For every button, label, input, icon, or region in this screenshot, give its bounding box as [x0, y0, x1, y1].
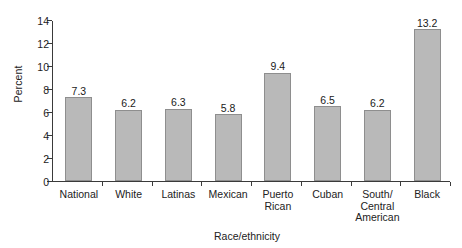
bar-puerto-rican: 9.4: [264, 73, 291, 181]
bar-black: 13.2: [414, 29, 441, 181]
x-tick-mark: [152, 182, 153, 186]
bar-value-label: 13.2: [417, 18, 437, 29]
bar-value-label: 6.5: [320, 95, 335, 106]
bar-value-label: 9.4: [271, 61, 286, 72]
x-tick-mark: [201, 182, 202, 186]
x-tick-mark: [102, 182, 103, 186]
bar-latinas: 6.3: [165, 109, 192, 181]
y-tick-label: 8: [43, 84, 49, 95]
bar-value-label: 6.2: [121, 98, 136, 109]
bar-value-label: 7.3: [72, 86, 87, 97]
x-tick-mark: [251, 182, 252, 186]
y-tick-label: 6: [43, 107, 49, 118]
x-category-label-line: Rican: [233, 201, 323, 213]
x-category-label-line: Black: [382, 189, 462, 201]
bar-white: 6.2: [115, 110, 142, 181]
x-tick-mark: [351, 182, 352, 186]
plot-area: 02468101214 7.36.26.35.89.46.56.213.2: [52, 21, 450, 182]
bar-value-label: 5.8: [221, 103, 236, 114]
x-tick-mark: [400, 182, 401, 186]
x-category-label: Black: [382, 189, 462, 201]
x-category-label-line: American: [332, 212, 422, 224]
bar-mexican: 5.8: [215, 114, 242, 181]
y-axis-line: [52, 21, 53, 182]
y-tick-label: 14: [37, 15, 49, 26]
bar-value-label: 6.2: [370, 98, 385, 109]
y-tick-label: 10: [37, 61, 49, 72]
bar-cuban: 6.5: [314, 106, 341, 181]
bar-national: 7.3: [65, 97, 92, 181]
x-tick-mark: [450, 182, 451, 186]
bar-value-label: 6.3: [171, 97, 186, 108]
bar-chart-figure: Percent 02468101214 7.36.26.35.89.46.56.…: [0, 0, 462, 248]
y-tick-label: 2: [43, 153, 49, 164]
y-tick-label: 12: [37, 38, 49, 49]
y-tick-label: 0: [43, 176, 49, 187]
y-tick-label: 4: [43, 130, 49, 141]
x-axis-title: Race/ethnicity: [0, 230, 462, 242]
x-tick-mark: [301, 182, 302, 186]
y-axis-title: Percent: [12, 44, 24, 124]
bar-south-central-american: 6.2: [364, 110, 391, 181]
